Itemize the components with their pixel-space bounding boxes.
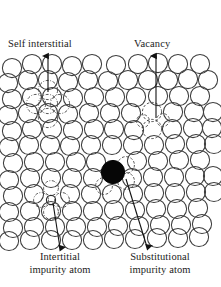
label-interstitial-impurity-line2: impurity atom	[14, 264, 106, 277]
label-substitutional-impurity-atom: Substitutional impurity atom	[110, 251, 210, 276]
label-substitutional-impurity-line2: impurity atom	[110, 264, 210, 277]
label-substitutional-impurity-line1: Substitutional	[110, 251, 210, 264]
label-vacancy: Vacancy	[134, 38, 170, 51]
lattice-defects-figure: Self interstitial Vacancy Intertitial im…	[0, 0, 221, 287]
label-interstitial-impurity-atom: Intertitial impurity atom	[14, 251, 106, 276]
lattice-atom-array	[0, 53, 221, 250]
arrow-interstitial-impurity	[53, 203, 60, 248]
label-interstitial-impurity-line1: Intertitial	[14, 251, 106, 264]
substitutional-impurity-atom	[101, 160, 124, 183]
label-self-interstitial: Self interstitial	[8, 38, 72, 51]
